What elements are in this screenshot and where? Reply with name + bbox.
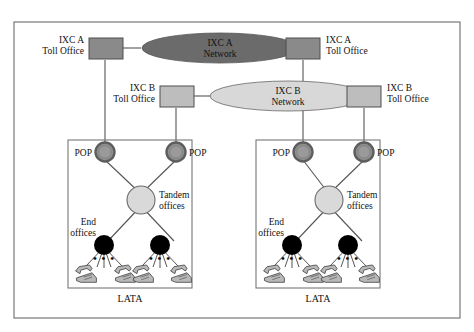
ixc-a-right-toll-office[interactable]: [286, 38, 320, 59]
ixc-b-network-label-line1: IXC B: [275, 86, 300, 96]
lata-left-group: POP POP Tandem offices End offices: [68, 140, 206, 304]
lata-left-pop-right-inner: [170, 146, 182, 158]
ixc-a-network-label-line1: IXC A: [207, 38, 232, 48]
lata-right-pop-left-inner: [297, 146, 309, 158]
lata-right-phone-3[interactable]: [321, 265, 342, 282]
ixc-b-right-toll-office-label-line2: Toll Office: [387, 94, 429, 104]
ixc-a-left-toll-office[interactable]: [89, 38, 123, 59]
lata-right-tandem-office[interactable]: [315, 186, 343, 214]
lata-right-pop-left-label: POP: [273, 148, 290, 158]
ixc-b-left-toll-office[interactable]: [160, 86, 194, 107]
lata-left-end-office-label-line2: offices: [70, 228, 96, 238]
lata-left-tandem-label-line2: offices: [159, 201, 185, 211]
lata-left-tandem-office[interactable]: [127, 186, 155, 214]
lata-left-pop-right-label: POP: [189, 148, 206, 158]
lata-left-phone-4[interactable]: [171, 265, 192, 282]
lata-left-phone-2[interactable]: [115, 265, 136, 282]
lata-right-phone-ellipsis-b: • • •: [337, 252, 359, 264]
lata-left-phone-ellipsis-a: • • •: [93, 252, 115, 264]
outer-frame: [14, 22, 460, 318]
ixc-a-right-toll-office-label-line2: Toll Office: [326, 46, 368, 56]
lata-left-phone-1[interactable]: [76, 265, 97, 282]
ixc-a-left-toll-office-label-line2: Toll Office: [42, 46, 84, 56]
lata-right-pop-right-inner: [358, 146, 370, 158]
lata-right-tandem-label-line1: Tandem: [347, 190, 378, 200]
lata-right-group: POP POP Tandem offices End offices: [256, 140, 394, 304]
lata-left-pop-left-inner: [99, 146, 111, 158]
ixc-a-left-toll-office-label-line1: IXC A: [59, 35, 84, 45]
lata-left-tandem-label-line1: Tandem: [159, 190, 190, 200]
ixc-b-right-toll-office-label-line1: IXC B: [387, 83, 412, 93]
lata-left-caption: LATA: [118, 293, 144, 304]
lata-right-tandem-label-line2: offices: [347, 201, 373, 211]
lata-right-phone-ellipsis-a: • • •: [281, 252, 303, 264]
ixc-b-right-toll-office[interactable]: [347, 86, 381, 107]
lata-right-phone-2[interactable]: [303, 265, 324, 282]
ixc-a-network-label-line2: Network: [203, 49, 236, 59]
ixc-b-left-toll-office-label-line1: IXC B: [130, 83, 155, 93]
lata-left-pop-left-label: POP: [75, 148, 92, 158]
lata-right-phone-1[interactable]: [264, 265, 285, 282]
lata-left-phone-ellipsis-b: • • •: [149, 252, 171, 264]
lata-right-pop-right-label: POP: [377, 148, 394, 158]
lata-right-end-office-label-line2: offices: [258, 228, 284, 238]
lata-right-end-office-label-line1: End: [269, 217, 285, 227]
lata-left-phone-3[interactable]: [133, 265, 154, 282]
lata-right-caption: LATA: [306, 293, 332, 304]
ixc-b-left-toll-office-label-line2: Toll Office: [113, 94, 155, 104]
lata-left-end-office-label-line1: End: [81, 217, 97, 227]
network-diagram: IXC A Network IXC B Network IXC A Toll O…: [0, 0, 474, 332]
ixc-a-right-toll-office-label-line1: IXC A: [326, 35, 351, 45]
ixc-b-network-label-line2: Network: [271, 97, 304, 107]
lata-right-phone-4[interactable]: [359, 265, 380, 282]
